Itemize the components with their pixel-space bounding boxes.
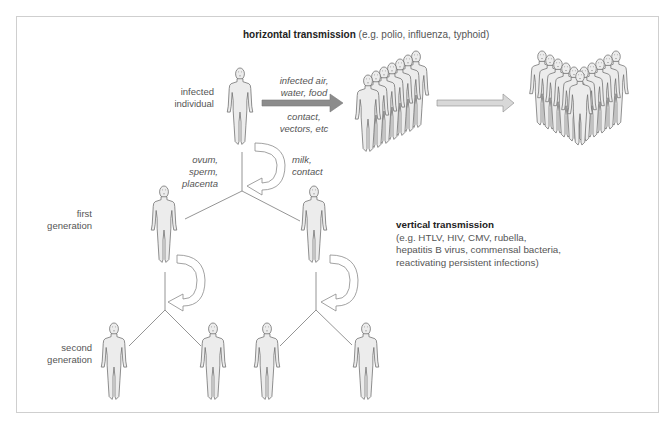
first-generation-left-figure xyxy=(151,186,176,262)
infected-individual-label: infected individual xyxy=(160,86,214,110)
horizontal-title: horizontal transmission xyxy=(243,29,356,40)
vertical-example-line: reactivating persistent infections) xyxy=(396,257,596,270)
second-generation-figure xyxy=(353,323,378,399)
vertical-title: vertical transmission xyxy=(396,219,596,232)
curved-arrow-icon xyxy=(321,255,358,311)
crowd-icon xyxy=(355,51,428,151)
light-arrow-icon xyxy=(437,94,514,112)
horizontal-examples: (e.g. polio, influenza, typhoid) xyxy=(359,29,490,40)
horizontal-transmission-heading: horizontal transmission (e.g. polio, inf… xyxy=(243,29,489,41)
vertical-example-line: hepatitis B virus, commensal bacteria, xyxy=(396,244,596,257)
germline-route-label: ovum, sperm, placenta xyxy=(170,154,218,190)
horizontal-routes-above: infected air, water, food xyxy=(268,75,340,99)
crowd-large-icon xyxy=(530,51,629,145)
vertical-example-line: (e.g. HTLV, HIV, CMV, rubella, xyxy=(396,232,596,245)
postnatal-route-label: milk, contact xyxy=(292,154,352,178)
curved-arrow-icon xyxy=(247,143,285,195)
first-generation-right-figure xyxy=(301,186,326,262)
vertical-transmission-block: vertical transmission (e.g. HTLV, HIV, C… xyxy=(396,219,596,269)
second-generation-figure xyxy=(101,323,126,399)
horizontal-routes-below: contact, vectors, etc xyxy=(268,111,340,135)
curved-arrow-icon xyxy=(168,255,205,311)
second-generation-label: second generation xyxy=(30,342,92,366)
first-generation-label: first generation xyxy=(30,208,92,232)
second-generation-figure xyxy=(254,323,279,399)
diagram-artwork xyxy=(0,0,672,426)
infected-individual-figure xyxy=(227,68,252,144)
second-generation-figure xyxy=(200,323,225,399)
